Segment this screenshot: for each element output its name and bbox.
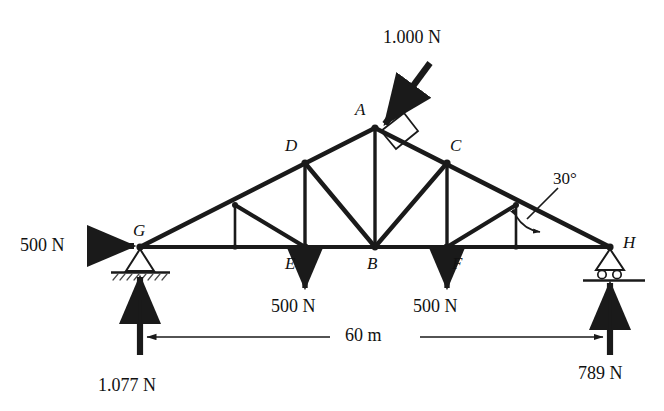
truss-drawing (0, 0, 664, 411)
joint-right-outer (513, 202, 519, 208)
joint-B (372, 244, 379, 251)
member-diagonal-right-inner (375, 163, 447, 247)
member-rafter-left (140, 128, 375, 247)
joint-left-outer-bottom (232, 244, 237, 249)
angle-annotation-30 (516, 188, 558, 232)
joint-right-outer-bottom (513, 244, 518, 249)
truss-diagram: A D C G E B F H 1.000 N 500 N 500 N 500 … (0, 0, 664, 411)
joint-D (301, 159, 308, 166)
support-pinned-g (111, 249, 170, 280)
joint-A (371, 124, 378, 131)
member-diagonal-left-outer (235, 205, 305, 247)
joint-C (443, 159, 450, 166)
joint-left-outer (232, 202, 238, 208)
span-dimension-line (140, 300, 610, 352)
member-diagonal-left-inner (305, 163, 375, 247)
member-rafter-right (375, 128, 610, 247)
member-diagonal-right-outer (447, 205, 516, 247)
support-roller-h (583, 249, 645, 281)
truss-members (140, 128, 610, 247)
